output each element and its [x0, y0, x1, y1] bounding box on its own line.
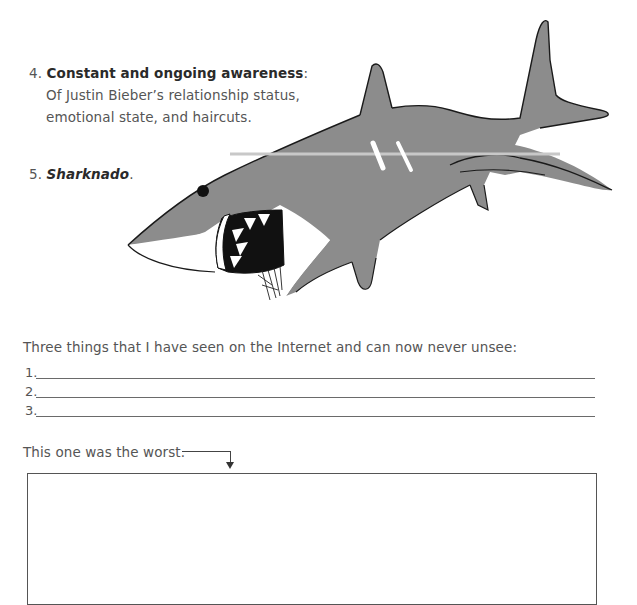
- write-in-line[interactable]: [36, 397, 595, 398]
- shark-illustration: [0, 0, 637, 320]
- blank-line-2[interactable]: 2.: [25, 382, 595, 400]
- item-description-line2: emotional state, and haircuts.: [29, 106, 308, 128]
- list-item-4: 4. Constant and ongoing awareness: Of Ju…: [29, 62, 308, 128]
- list-item-5: 5. Sharknado.: [29, 163, 134, 185]
- item-number: 4.: [29, 65, 42, 81]
- write-in-line[interactable]: [36, 378, 595, 379]
- three-things-prompt: Three things that I have seen on the Int…: [23, 339, 517, 355]
- item-period: .: [129, 166, 133, 182]
- item-number: 5.: [29, 166, 42, 182]
- blank-number: 1.: [25, 365, 35, 381]
- arrow-down-icon: [226, 462, 234, 469]
- write-in-line[interactable]: [36, 416, 595, 417]
- blank-number: 3.: [25, 403, 35, 419]
- item-title: Constant and ongoing awareness: [47, 65, 304, 81]
- arrow-connector-icon: [182, 451, 231, 466]
- drawing-answer-box[interactable]: [27, 473, 597, 605]
- blank-line-1[interactable]: 1.: [25, 363, 595, 381]
- item-description-line1: Of Justin Bieber’s relationship status,: [29, 84, 308, 106]
- worst-label: This one was the worst.: [23, 444, 185, 460]
- shark-mouth: [216, 210, 284, 300]
- blank-line-3[interactable]: 3.: [25, 401, 595, 419]
- item-colon: :: [304, 65, 309, 81]
- item-title: Sharknado: [47, 166, 130, 182]
- blank-number: 2.: [25, 384, 35, 400]
